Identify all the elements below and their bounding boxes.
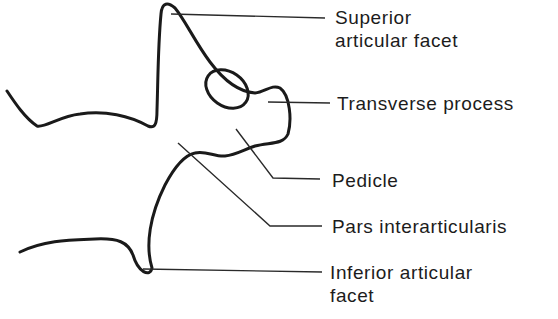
vertebra-diagram: Superior articular facet Transverse proc… xyxy=(0,0,558,319)
label-transverse-process-line1: Transverse process xyxy=(337,92,514,115)
label-inferior-articular-facet: Inferior articular facet xyxy=(330,261,473,307)
vertebra-outline-drawing xyxy=(0,0,558,319)
leader-line-inferior-articular-facet xyxy=(143,269,322,272)
label-pedicle: Pedicle xyxy=(332,169,399,192)
leader-line-pars-interarticularis xyxy=(178,143,322,226)
label-pars-interarticularis-line1: Pars interarticularis xyxy=(332,215,507,238)
label-pars-interarticularis: Pars interarticularis xyxy=(332,215,507,238)
label-pedicle-line1: Pedicle xyxy=(332,169,399,192)
leader-line-superior-articular-facet xyxy=(171,14,325,18)
label-superior-articular-facet-line1: Superior xyxy=(335,6,458,29)
label-superior-articular-facet-line2: articular facet xyxy=(335,29,458,52)
label-transverse-process: Transverse process xyxy=(337,92,514,115)
leader-line-transverse-process xyxy=(268,102,330,103)
label-inferior-articular-facet-line1: Inferior articular xyxy=(330,261,473,284)
upper-vertebra-outline xyxy=(7,4,290,273)
label-inferior-articular-facet-line2: facet xyxy=(330,284,473,307)
pedicle-ellipse xyxy=(198,62,255,116)
leader-line-pedicle xyxy=(236,129,320,179)
label-superior-articular-facet: Superior articular facet xyxy=(335,6,458,52)
